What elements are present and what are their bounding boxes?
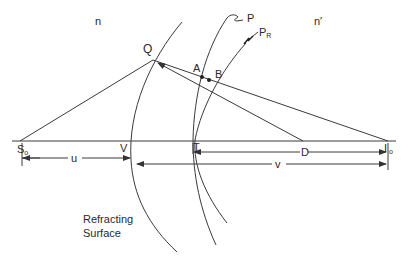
point-b-dot <box>207 78 211 82</box>
image-io-main: I <box>384 142 387 154</box>
pr-pointer-icon <box>244 36 253 44</box>
pr-leader <box>253 32 258 36</box>
caption-line-2: Surface <box>83 226 133 240</box>
medium-n-label: n <box>95 16 101 27</box>
refraction-diagram: n n′ P PR Q A B So Io V T u D v Refracti… <box>0 0 412 269</box>
caption-line-1: Refracting <box>83 212 133 226</box>
wavefront-p-arc <box>193 18 227 245</box>
wavefront-pr-label: PR <box>259 27 271 38</box>
point-t-label: T <box>193 142 200 153</box>
object-so-sub: o <box>24 149 28 156</box>
distance-d-label: D <box>301 147 309 158</box>
ray-so-to-q <box>20 60 153 141</box>
point-b-label: B <box>215 69 222 80</box>
refracting-surface-caption: Refracting Surface <box>83 212 133 240</box>
distance-u-label: u <box>71 153 77 164</box>
image-io-sub: o <box>389 148 393 155</box>
refracting-surface-arc <box>131 22 182 252</box>
image-io-label: Io <box>384 143 393 154</box>
point-q-label: Q <box>143 43 152 55</box>
object-so-label: So <box>17 144 28 155</box>
vertex-v-label: V <box>120 143 127 154</box>
medium-n-prime-label: n′ <box>314 16 322 27</box>
point-a-label: A <box>193 63 200 74</box>
wavefront-p-tail <box>227 15 243 21</box>
wavefront-p-label: P <box>247 13 254 24</box>
ray-q-to-d <box>158 63 303 141</box>
point-a-dot <box>200 75 204 79</box>
wavefront-pr-sub: R <box>266 32 271 39</box>
distance-v-label: v <box>275 159 281 170</box>
diagram-graphics <box>0 0 412 269</box>
ray-q-to-io <box>153 60 388 141</box>
